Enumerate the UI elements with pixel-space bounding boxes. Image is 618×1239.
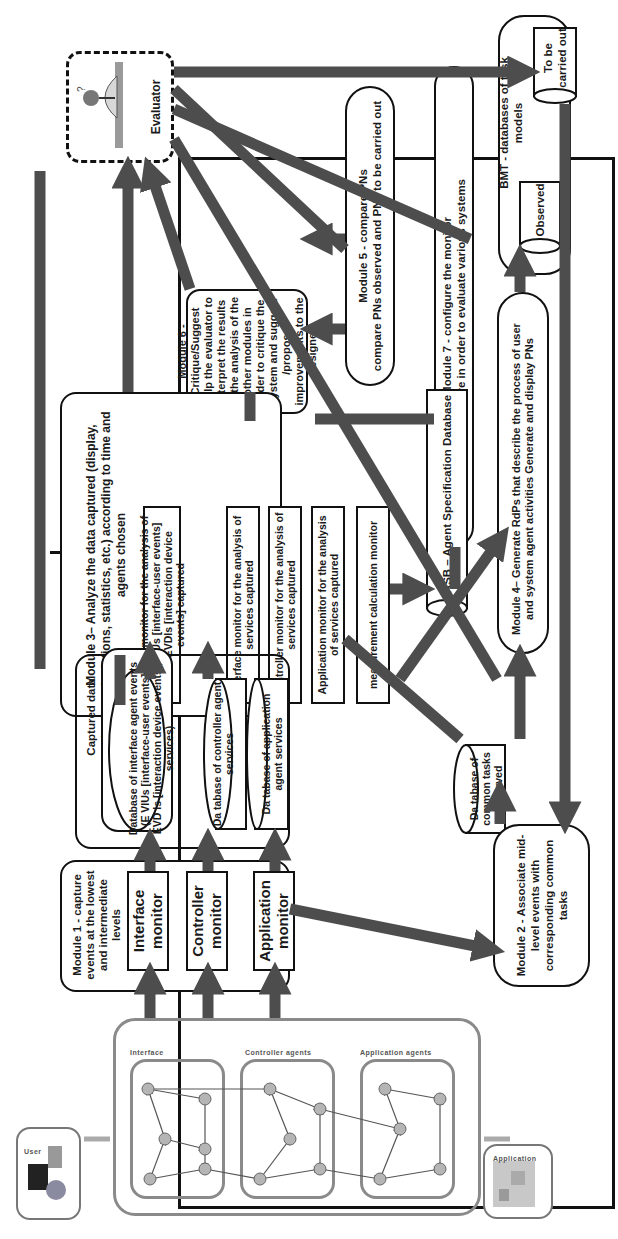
user-at-computer-icon xyxy=(18,1130,78,1218)
application-monitor: Application monitor xyxy=(253,871,295,971)
module4-box: Module 4– Generate RdPs that describe th… xyxy=(497,292,549,654)
module5-title: Module 5 - compare PNs xyxy=(356,169,370,303)
network-controller-layer xyxy=(240,1059,335,1199)
module7-title: Module 7 - configure the monitor xyxy=(440,217,454,396)
bmt-db-to-be-carried-out: To be carried out xyxy=(532,24,578,104)
module1-title: Module 1 - capture events at the lowest … xyxy=(68,864,126,986)
db-application-agent-services: Da tabase of application agent services xyxy=(245,669,290,839)
db-controller-agent-services: Da tabase of controller agent services xyxy=(188,669,248,839)
module5-box: Module 5 - compare PNs compare PNs obser… xyxy=(345,86,395,386)
module3-monitor-measurement: measurement calculation monitor xyxy=(356,506,390,704)
layer-label-interface: Interface xyxy=(130,1049,164,1056)
evaluator-box: ? Evaluator xyxy=(66,51,174,163)
db-common-tasks: Da tabase of common tasks observed xyxy=(452,739,507,839)
controller-monitor: Controller monitor xyxy=(186,871,228,971)
module2-box: Module 2 - Associate mid-level events wi… xyxy=(493,824,590,987)
network-application-layer xyxy=(360,1059,455,1199)
asb-database: ASB – Agent Specification Database xyxy=(425,386,469,618)
module4-title: Module 4– Generate RdPs that describe th… xyxy=(499,314,547,644)
layer-label-controller: Controller agents xyxy=(245,1049,311,1056)
layer-label-application: Application agents xyxy=(360,1049,432,1056)
bmt-db-observed: Observed xyxy=(518,179,562,254)
module2-title: Module 2 - Associate mid-level events wi… xyxy=(495,826,588,985)
module5-body: compare PNs observed and PNs to be carri… xyxy=(370,101,384,371)
db-interface-agent-events-label: Database of interface agent events (E VI… xyxy=(120,656,182,841)
evaluator-person-icon: ? xyxy=(71,52,141,158)
diagram-canvas: ? Evaluator Module 6 - Critique/Suggest … xyxy=(0,0,618,1239)
module3-monitor-application: Application monitor for the analysis of … xyxy=(311,506,345,704)
svg-text:?: ? xyxy=(76,86,87,92)
application-box: Application xyxy=(483,1144,553,1219)
user-box: User xyxy=(16,1127,81,1220)
interface-monitor: Interface monitor xyxy=(127,871,169,971)
evaluator-label: Evaluator xyxy=(147,54,165,160)
network-interface-layer xyxy=(130,1059,225,1199)
